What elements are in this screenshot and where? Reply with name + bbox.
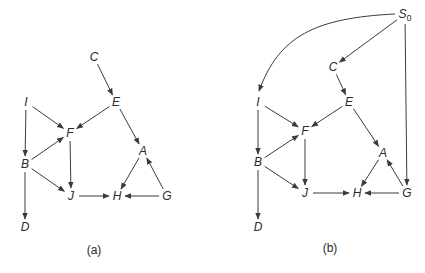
edge-b-to-j xyxy=(32,169,65,192)
node-a: A xyxy=(378,146,387,160)
node-j: J xyxy=(67,189,75,203)
graph-b-edges xyxy=(258,14,407,219)
node-h: H xyxy=(353,186,362,200)
graph-a: CEIFABJHGD (a) xyxy=(21,50,172,257)
edge-i-to-f xyxy=(265,106,298,127)
node-g: G xyxy=(402,186,411,200)
edge-a-to-h xyxy=(361,160,378,187)
edge-s0-to-c xyxy=(339,20,397,62)
node-b: B xyxy=(254,155,262,169)
node-s0: S0 xyxy=(398,7,411,23)
node-d: D xyxy=(21,220,30,234)
edge-f-to-j xyxy=(70,141,71,188)
node-d: D xyxy=(254,220,263,234)
node-c: C xyxy=(90,50,99,64)
edge-g-to-a xyxy=(387,160,403,186)
graph-a-nodes: CEIFABJHGD xyxy=(21,50,172,234)
edge-e-to-a xyxy=(353,109,378,147)
graph-a-caption: (a) xyxy=(87,243,102,257)
edge-a-to-h xyxy=(121,158,139,189)
edge-c-to-e xyxy=(98,64,113,95)
edge-e-to-f xyxy=(77,107,110,129)
edge-s0-to-i xyxy=(259,14,395,91)
diagram-canvas: CEIFABJHGD (a) S0CEIFABJHGD (b) xyxy=(0,0,425,273)
edge-b-to-f xyxy=(265,135,299,157)
node-e: E xyxy=(112,95,121,109)
graph-a-edges xyxy=(25,64,163,219)
node-f: F xyxy=(66,126,74,140)
node-c: C xyxy=(329,60,338,74)
node-g: G xyxy=(162,189,171,203)
graph-b: S0CEIFABJHGD (b) xyxy=(254,7,412,255)
edge-b-to-f xyxy=(32,138,64,160)
edge-e-to-a xyxy=(120,109,139,144)
edge-c-to-e xyxy=(336,74,345,94)
edge-b-to-j xyxy=(265,166,299,188)
node-h: H xyxy=(113,189,122,203)
node-f: F xyxy=(301,124,309,138)
node-e: E xyxy=(345,95,354,109)
node-subscript: 0 xyxy=(407,13,412,23)
node-j: J xyxy=(301,186,309,200)
edge-i-to-b xyxy=(25,110,26,156)
graph-b-nodes: S0CEIFABJHGD xyxy=(254,7,412,234)
node-b: B xyxy=(21,157,29,171)
node-i: I xyxy=(24,95,28,109)
node-a: A xyxy=(138,144,147,158)
graph-b-caption: (b) xyxy=(323,241,338,255)
edge-i-to-f xyxy=(33,107,64,129)
edge-g-to-a xyxy=(147,158,163,189)
node-i: I xyxy=(256,95,260,109)
edge-s0-to-g xyxy=(405,24,407,185)
edge-e-to-f xyxy=(312,106,343,126)
